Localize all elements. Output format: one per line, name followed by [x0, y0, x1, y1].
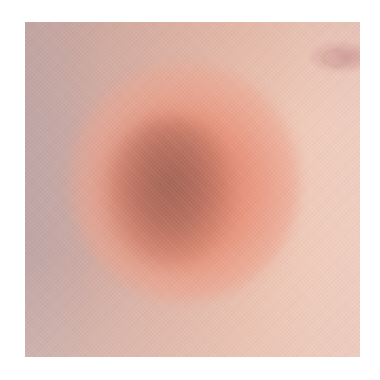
- image-canvas: [0, 0, 380, 380]
- photo-grain: [25, 22, 360, 357]
- skin-photo: [25, 22, 360, 357]
